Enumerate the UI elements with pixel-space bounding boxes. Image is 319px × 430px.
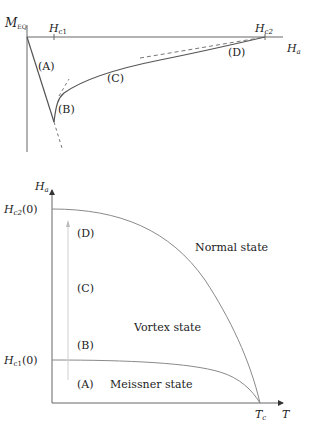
tick-hc1-label: Hc1 bbox=[48, 22, 67, 36]
region-normal-state: Normal state bbox=[195, 241, 268, 254]
y-axis-label: MEQ bbox=[4, 16, 27, 30]
region-label-c: (C) bbox=[107, 72, 124, 85]
y-axis-label: Ha bbox=[34, 180, 49, 194]
region-label-b: (B) bbox=[58, 103, 75, 116]
region-label-d: (D) bbox=[228, 46, 245, 59]
dashed-tangent-d bbox=[140, 37, 265, 58]
magnetization-plot: MEQ Hc1 Hc2 Ha (A) (B) (C) (D) bbox=[4, 16, 301, 152]
path-label-d: (D) bbox=[77, 227, 94, 240]
dashed-extension-a bbox=[54, 122, 62, 148]
path-arrow-head bbox=[66, 220, 70, 227]
path-label-c: (C) bbox=[77, 282, 94, 295]
tick-hc1-0-label: Hc1(0) bbox=[3, 354, 38, 368]
curve-a bbox=[27, 37, 54, 122]
region-vortex-state: Vortex state bbox=[133, 321, 201, 334]
tick-hc2-label: Hc2 bbox=[254, 22, 274, 36]
phase-diagram: Ha Hc2(0) Hc1(0) Tc T (D) (C) (B) (A) No… bbox=[3, 180, 291, 422]
tick-tc-label: Tc bbox=[255, 408, 266, 422]
region-label-a: (A) bbox=[38, 60, 55, 73]
region-meissner-state: Meissner state bbox=[110, 378, 192, 391]
x-axis-label: T bbox=[282, 408, 291, 421]
figure: MEQ Hc1 Hc2 Ha (A) (B) (C) (D) Ha Hc bbox=[0, 0, 319, 430]
tick-hc2-0-label: Hc2(0) bbox=[3, 203, 38, 217]
path-label-a: (A) bbox=[77, 378, 94, 391]
x-axis-label: Ha bbox=[286, 42, 301, 56]
path-label-b: (B) bbox=[77, 339, 94, 352]
